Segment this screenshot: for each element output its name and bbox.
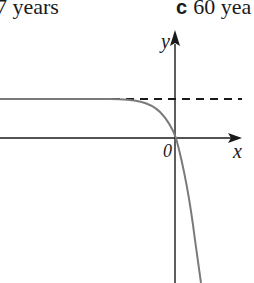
curve: [0, 99, 201, 283]
origin-label: 0: [163, 141, 172, 161]
y-axis-label: y: [159, 30, 170, 53]
graph: y x 0: [0, 0, 254, 283]
y-axis-arrow-icon: [170, 30, 180, 46]
x-axis-label: x: [232, 140, 242, 162]
